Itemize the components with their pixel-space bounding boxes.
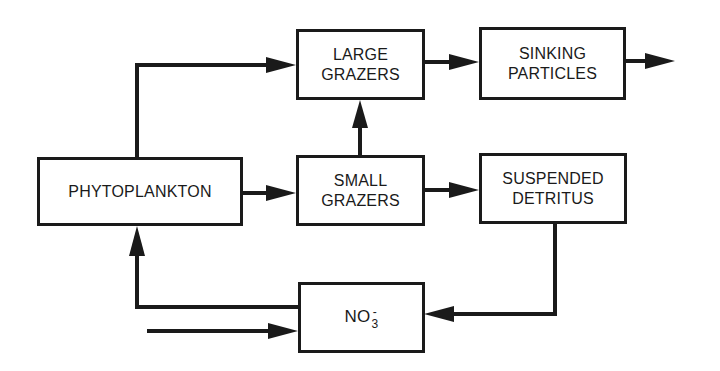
node-sinking-particles: SINKING PARTICLES (479, 27, 626, 100)
arrow-nitrate-to-phyto (137, 246, 298, 307)
arrowhead (268, 323, 298, 339)
arrowhead (449, 54, 479, 70)
formula-subscript: 3 (372, 318, 379, 330)
node-phytoplankton: PHYTOPLANKTON (37, 157, 243, 226)
arrowhead (424, 306, 454, 322)
node-label: GRAZERS (321, 191, 400, 211)
arrowhead (129, 226, 145, 256)
arrowhead (266, 185, 296, 201)
arrow-phyto-to-large-grazers (137, 65, 276, 157)
node-label: DETRITUS (512, 189, 594, 209)
node-label: SINKING (519, 44, 586, 64)
node-small-grazers: SMALL GRAZERS (296, 155, 425, 226)
arrowhead (645, 53, 675, 69)
node-nitrate: NO-3 (298, 282, 425, 353)
arrowhead (352, 100, 368, 128)
arrowhead (266, 57, 296, 73)
arrowhead (449, 182, 479, 198)
node-label: GRAZERS (321, 65, 400, 85)
node-large-grazers: LARGE GRAZERS (296, 29, 425, 100)
node-label: SMALL (334, 171, 387, 191)
node-label: LARGE (333, 45, 388, 65)
formula-superscript: - (372, 306, 379, 318)
formula-base: NO (345, 307, 371, 326)
node-label: SUSPENDED (502, 169, 603, 189)
arrow-detritus-to-nitrate (444, 223, 555, 314)
node-label: PHYTOPLANKTON (68, 182, 211, 202)
node-label: PARTICLES (508, 64, 597, 84)
nitrate-formula: NO-3 (345, 306, 379, 330)
node-suspended-detritus: SUSPENDED DETRITUS (479, 153, 627, 224)
